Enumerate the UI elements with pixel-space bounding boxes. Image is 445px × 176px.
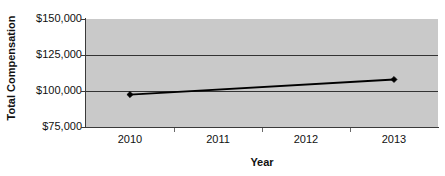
x-axis-tick-label: 2013 bbox=[364, 133, 424, 145]
y-axis-tick-label: $125,000 bbox=[10, 49, 82, 60]
y-axis-tick-labels: $75,000$100,000$125,000$150,000 bbox=[8, 0, 82, 176]
x-axis-tick-label: 2011 bbox=[188, 133, 248, 145]
plot-area bbox=[86, 19, 438, 127]
y-axis-tick-mark bbox=[81, 55, 86, 56]
x-axis-tick-mark bbox=[262, 128, 263, 132]
y-axis-tick-mark bbox=[81, 19, 86, 20]
y-axis-tick-label: $75,000 bbox=[10, 121, 82, 132]
y-axis-tick-mark bbox=[81, 91, 86, 92]
series-layer bbox=[86, 19, 438, 127]
line-chart: Total Compensation $75,000$100,000$125,0… bbox=[0, 0, 445, 176]
x-axis-title: Year bbox=[86, 156, 438, 168]
data-point-marker bbox=[391, 76, 397, 82]
data-point-marker bbox=[127, 92, 133, 98]
x-axis-tick-label: 2012 bbox=[276, 133, 336, 145]
y-axis-tick-label: $150,000 bbox=[10, 13, 82, 24]
x-axis-tick-labels: 2010201120122013 bbox=[86, 133, 438, 149]
series-line bbox=[130, 79, 394, 94]
x-axis-tick-mark bbox=[174, 128, 175, 132]
x-axis-tick-mark bbox=[350, 128, 351, 132]
y-axis-tick-label: $100,000 bbox=[10, 85, 82, 96]
x-axis-tick-label: 2010 bbox=[100, 133, 160, 145]
y-axis-tick-mark bbox=[81, 127, 86, 128]
